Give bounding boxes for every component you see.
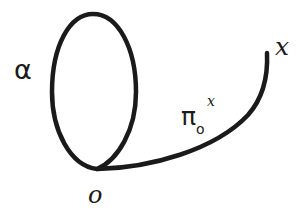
path-label-superscript: x bbox=[207, 94, 215, 108]
loop-label-alpha: α bbox=[14, 56, 32, 83]
endpoint-label-x: x bbox=[275, 34, 289, 59]
diagram-canvas: α x o π o x bbox=[0, 0, 305, 211]
path-label-subscript: o bbox=[196, 122, 205, 136]
diagram-svg bbox=[0, 0, 305, 211]
path-label-pi: π bbox=[181, 104, 196, 129]
basepoint-label-o: o bbox=[88, 183, 102, 207]
loop-alpha-curve bbox=[52, 14, 136, 169]
